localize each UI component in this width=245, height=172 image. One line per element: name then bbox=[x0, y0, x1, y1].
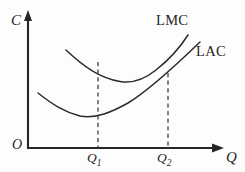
lmc-curve-label: LMC bbox=[156, 13, 188, 28]
y-axis-label: C bbox=[11, 13, 21, 28]
lmc-curve bbox=[66, 35, 188, 82]
lac-curve-label: LAC bbox=[196, 44, 226, 59]
cost-curve-figure: C O Q LMC LAC Q1 Q2 bbox=[0, 0, 245, 172]
lac-curve bbox=[38, 42, 200, 117]
q2-tick-subscript: 2 bbox=[167, 158, 172, 168]
y-axis-arrowhead bbox=[24, 10, 32, 21]
q1-tick-subscript: 1 bbox=[97, 158, 102, 168]
q1-tick-base: Q bbox=[87, 150, 97, 165]
q2-tick-base: Q bbox=[157, 150, 167, 165]
q2-tick-label: Q2 bbox=[157, 151, 172, 168]
x-axis-label: Q bbox=[226, 150, 237, 165]
x-axis-arrowhead bbox=[212, 144, 224, 153]
figure-canvas bbox=[0, 0, 245, 172]
q1-tick-label: Q1 bbox=[87, 151, 102, 168]
origin-label: O bbox=[12, 138, 22, 152]
